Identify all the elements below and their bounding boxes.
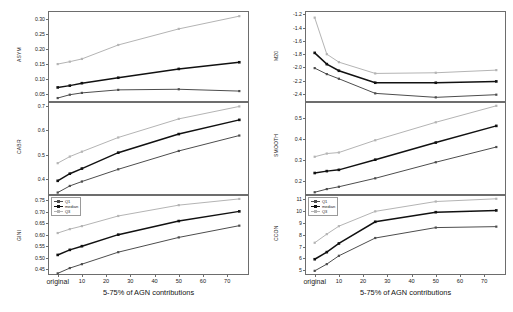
data-point-marker [374, 139, 376, 141]
data-point-marker [81, 58, 83, 60]
series-layer-smooth [305, 102, 506, 195]
series-layer-asym [48, 11, 249, 102]
y-axis-label-gini: GINI [16, 230, 22, 241]
data-point-marker [238, 90, 240, 92]
y-tick-label: 0.50 [19, 255, 45, 261]
legend-swatch-icon [54, 201, 63, 202]
data-point-marker [117, 233, 120, 236]
y-tick-label: 0.15 [19, 61, 45, 67]
data-point-marker [178, 150, 180, 152]
data-point-marker [81, 151, 83, 153]
data-point-marker [57, 162, 59, 164]
data-point-marker [117, 151, 120, 154]
y-tick-label: 0.20 [19, 46, 45, 52]
x-tick-mark [227, 275, 228, 277]
data-point-marker [434, 141, 437, 144]
data-point-marker [57, 97, 59, 99]
data-point-marker [374, 220, 377, 223]
data-point-marker [338, 69, 341, 72]
data-point-marker [81, 82, 84, 85]
data-point-marker [338, 186, 340, 188]
data-point-marker [238, 105, 240, 107]
panel-cabr: 0.40.50.60.7CABR [0, 102, 256, 195]
data-point-marker [435, 200, 437, 202]
data-point-marker [69, 155, 71, 157]
series-layer-cabr [48, 102, 249, 195]
y-tick-label: 0.55 [19, 243, 45, 249]
data-point-marker [117, 251, 119, 253]
x-tick-label: 70 [207, 278, 247, 284]
y-axis-label-ccon: CCON [273, 225, 279, 241]
y-tick-label: 0.4 [19, 176, 45, 182]
data-point-marker [69, 267, 71, 269]
data-point-marker [313, 172, 316, 175]
data-point-marker [374, 210, 376, 212]
y-tick-label: -1.6 [276, 38, 302, 44]
data-point-marker [178, 88, 180, 90]
data-point-marker [238, 134, 240, 136]
data-point-marker [177, 68, 180, 71]
legend-swatch-icon [54, 206, 63, 207]
data-point-marker [435, 226, 437, 228]
y-tick-label: 0.25 [19, 31, 45, 37]
y-axis-label-smooth: SMOOTH [273, 134, 279, 157]
data-point-marker [69, 84, 72, 87]
y-tick-label: 11 [276, 196, 302, 202]
data-point-marker [326, 263, 328, 265]
x-tick-label: 70 [464, 278, 504, 284]
data-point-marker [81, 167, 84, 170]
y-axis-label-cabr: CABR [16, 139, 22, 154]
x-tick-mark [315, 275, 316, 277]
data-point-marker [178, 28, 180, 30]
x-tick-mark [484, 275, 485, 277]
left-panel-column: 0.050.100.150.200.250.30ASYM0.40.50.60.7… [0, 0, 256, 312]
data-point-marker [314, 67, 316, 69]
data-point-marker [56, 180, 59, 183]
panel-asym: 0.050.100.150.200.250.30ASYM [0, 11, 256, 102]
panel-gini: 0.450.500.550.600.650.700.75GINIQ1median… [0, 195, 256, 275]
series-line-q3 [315, 199, 497, 243]
data-point-marker [495, 105, 497, 107]
data-point-marker [81, 263, 83, 265]
x-tick-mark [339, 275, 340, 277]
data-point-marker [238, 61, 241, 64]
data-point-marker [435, 161, 437, 163]
data-point-marker [326, 170, 329, 173]
y-tick-label: 7 [276, 244, 302, 250]
x-tick-mark [179, 275, 180, 277]
series-line-median [315, 53, 497, 83]
data-point-marker [326, 53, 328, 55]
data-point-marker [117, 76, 120, 79]
data-point-marker [56, 86, 59, 89]
data-point-marker [69, 185, 71, 187]
data-point-marker [338, 78, 340, 80]
data-point-marker [238, 225, 240, 227]
y-tick-label: -1.8 [276, 51, 302, 57]
y-tick-label: 5 [276, 267, 302, 273]
data-point-marker [238, 119, 241, 122]
panel-m20: -1.2-1.4-1.6-1.8-2.0-2.2-2.4M20 [257, 11, 513, 102]
data-point-marker [326, 233, 328, 235]
data-point-marker [374, 237, 376, 239]
data-point-marker [326, 152, 328, 154]
data-point-marker [434, 211, 437, 214]
y-tick-label: -2.4 [276, 91, 302, 97]
series-line-q3 [315, 18, 497, 74]
data-point-marker [374, 81, 377, 84]
x-tick-mark [106, 275, 107, 277]
data-point-marker [495, 146, 497, 148]
data-point-marker [435, 96, 437, 98]
series-line-median [315, 126, 497, 173]
data-point-marker [326, 73, 328, 75]
data-point-marker [81, 92, 83, 94]
x-tick-mark [363, 275, 364, 277]
data-point-marker [177, 133, 180, 136]
series-line-q1 [315, 227, 497, 271]
y-tick-label: 0.10 [19, 76, 45, 82]
legend-item: Q3 [311, 209, 335, 214]
data-point-marker [313, 258, 316, 261]
data-point-marker [177, 220, 180, 223]
y-tick-label: 0.4 [276, 136, 302, 142]
data-point-marker [495, 69, 497, 71]
data-point-marker [435, 121, 437, 123]
